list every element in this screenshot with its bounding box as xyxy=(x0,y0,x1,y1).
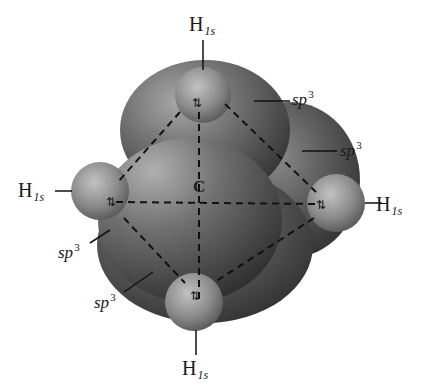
sp3-label-upper-right: sp3 xyxy=(292,89,314,108)
electron-pair-icon: ⇅ xyxy=(190,289,200,303)
electron-pair-icon: ⇅ xyxy=(192,96,202,110)
h1s-label-right: H1s xyxy=(376,194,402,217)
methane-orbital-diagram: ⇅ ⇅ ⇅ ⇅ xyxy=(0,0,427,392)
sp3-label-right: sp3 xyxy=(340,140,362,159)
h1s-sphere-left xyxy=(71,162,129,220)
carbon-label: C xyxy=(193,178,205,195)
h1s-label-top: H1s xyxy=(189,14,215,37)
sp3-label-left: sp3 xyxy=(58,242,80,261)
electron-pair-icon: ⇅ xyxy=(316,198,326,212)
h1s-label-bottom: H1s xyxy=(182,358,208,381)
h1s-label-left: H1s xyxy=(18,180,44,203)
electron-pair-icon: ⇅ xyxy=(106,195,116,209)
h1s-sphere-top xyxy=(175,67,231,123)
sp3-label-lower-left: sp3 xyxy=(94,292,116,311)
